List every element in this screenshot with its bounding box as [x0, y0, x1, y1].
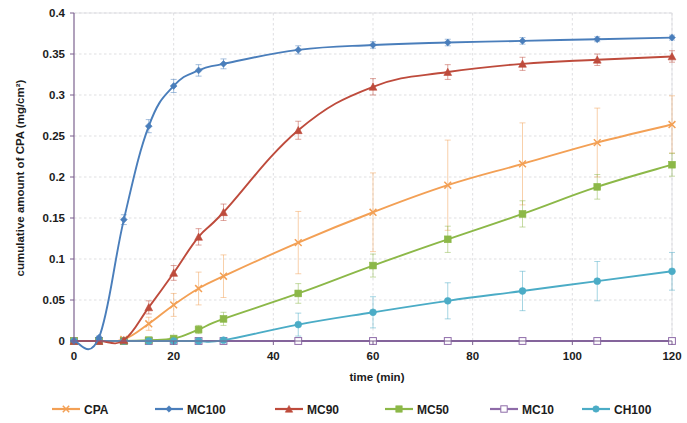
y-tick-label: 0.25: [43, 130, 66, 142]
data-point-marker: [519, 288, 526, 295]
data-point-marker: [594, 278, 601, 285]
data-point-marker: [295, 290, 302, 297]
x-tick-label: 20: [167, 350, 180, 362]
x-tick-label: 0: [71, 350, 77, 362]
x-tick-label: 40: [267, 350, 280, 362]
x-axis-title: time (min): [350, 371, 405, 383]
legend-label: MC90: [307, 403, 339, 417]
data-point-marker: [669, 161, 676, 168]
cumulative-cpa-release-chart: 00.050.10.150.20.250.30.350.4 0204060801…: [0, 0, 687, 423]
data-point-marker: [370, 309, 377, 316]
legend-label: MC50: [417, 403, 449, 417]
chart-background: [0, 0, 687, 423]
data-point-marker: [220, 337, 227, 344]
data-point-marker: [370, 262, 377, 269]
x-tick-label: 60: [367, 350, 380, 362]
data-point-marker: [396, 406, 402, 412]
y-tick-label: 0: [59, 335, 65, 347]
data-point-marker: [220, 315, 227, 322]
y-tick-label: 0.2: [49, 171, 65, 183]
y-tick-label: 0.1: [49, 253, 66, 265]
data-point-marker: [444, 236, 451, 243]
data-point-marker: [195, 326, 202, 333]
x-tick-label: 100: [563, 350, 582, 362]
data-point-marker: [669, 268, 676, 275]
data-point-marker: [593, 406, 599, 412]
x-tick-label: 120: [662, 350, 681, 362]
y-tick-label: 0.05: [43, 294, 66, 306]
data-point-marker: [295, 321, 302, 328]
legend-label: CH100: [614, 403, 652, 417]
data-point-marker: [444, 297, 451, 304]
y-tick-label: 0.4: [49, 7, 66, 19]
legend-label: MC10: [522, 403, 554, 417]
data-point-marker: [501, 406, 507, 412]
chart-container: 00.050.10.150.20.250.30.350.4 0204060801…: [0, 0, 687, 423]
y-axis-title: cumulative amount of CPA (mg/cm²): [14, 79, 26, 276]
y-tick-label: 0.3: [49, 89, 65, 101]
y-tick-label: 0.15: [43, 212, 66, 224]
x-tick-label: 80: [466, 350, 479, 362]
data-point-marker: [519, 211, 526, 218]
y-tick-label: 0.35: [43, 48, 66, 60]
data-point-marker: [594, 183, 601, 190]
legend-label: CPA: [84, 403, 109, 417]
legend-label: MC100: [187, 403, 226, 417]
